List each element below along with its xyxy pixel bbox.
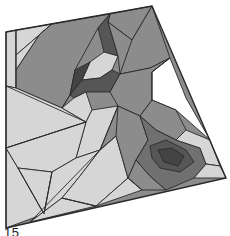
polygon-mosaic-figure: [0, 0, 230, 236]
region-left-strip: [6, 30, 16, 88]
mosaic-regions: [6, 6, 226, 228]
figure-number-label: 15: [4, 226, 19, 236]
